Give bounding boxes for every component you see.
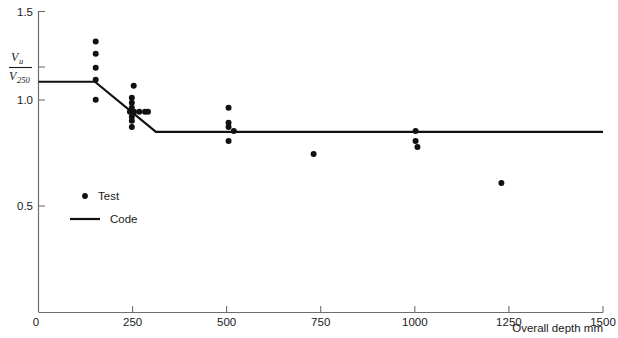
x-tick-label-1000: 1000 (402, 316, 428, 328)
y-tick-label-0.5: 0.5 (17, 200, 33, 212)
chart-container: 1.5 1.0 0.5 0 V u V 250 250 500 750 1 (0, 0, 618, 338)
data-point (311, 151, 317, 157)
legend-label-test: Test (98, 190, 120, 202)
data-point (226, 138, 232, 144)
data-point (226, 124, 232, 130)
data-point (145, 109, 151, 115)
x-axis-title: Overall depth mm (512, 322, 603, 334)
x-tick-label-750: 750 (311, 316, 330, 328)
y-tick-label-0: 0 (33, 316, 39, 328)
data-point (498, 180, 504, 186)
axes-group (39, 11, 604, 313)
test-series-points (93, 39, 505, 186)
data-point (413, 128, 419, 134)
legend-label-code: Code (110, 213, 138, 225)
data-point (131, 83, 137, 89)
data-point (226, 105, 232, 111)
data-point (129, 124, 135, 130)
y-axis-denominator-subscript: 250 (17, 75, 31, 85)
data-point (93, 97, 99, 103)
data-point (413, 138, 419, 144)
data-point (93, 51, 99, 57)
data-point (93, 65, 99, 71)
data-point (414, 144, 420, 150)
legend-dot-icon (82, 193, 88, 199)
y-axis-tick-labels: 1.5 1.0 0.5 0 (17, 6, 39, 328)
x-tick-label-250: 250 (123, 316, 142, 328)
data-point (93, 39, 99, 45)
y-axis-ticks (39, 12, 46, 207)
y-axis-numerator-subscript: u (19, 56, 23, 66)
y-tick-label-1.5: 1.5 (17, 6, 33, 18)
code-series-line (39, 82, 604, 132)
data-point (136, 109, 142, 115)
x-tick-label-500: 500 (217, 316, 236, 328)
data-point (129, 118, 135, 124)
scatter-plot: 1.5 1.0 0.5 0 V u V 250 250 500 750 1 (0, 0, 618, 338)
data-point (231, 128, 237, 134)
data-point (93, 77, 99, 83)
y-tick-label-1.0: 1.0 (17, 94, 33, 106)
x-axis-ticks (133, 306, 603, 313)
legend: Test Code (70, 190, 138, 225)
y-axis-title: V u V 250 (9, 50, 32, 85)
